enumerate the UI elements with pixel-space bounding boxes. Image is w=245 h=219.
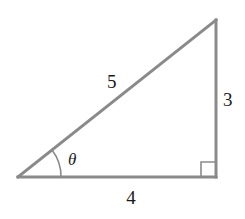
hypotenuse-line [18,20,216,177]
angle-arc [52,150,61,177]
horizontal-side-label: 4 [126,187,136,208]
vertical-side-label: 3 [223,89,233,110]
angle-theta-label: θ [68,150,76,169]
hypotenuse-label: 5 [107,71,117,92]
right-angle-marker [201,162,216,177]
right-triangle-diagram: 5 3 4 θ [0,0,245,219]
triangle [18,20,216,177]
